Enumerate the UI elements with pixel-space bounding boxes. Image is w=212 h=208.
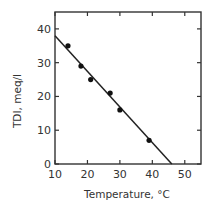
data-point: [65, 43, 70, 48]
x-tick-label: 30: [113, 168, 127, 181]
x-axis-label: Temperature, °C: [83, 188, 170, 200]
fit-line: [55, 36, 172, 164]
data-point: [88, 77, 93, 82]
y-axis-label: TDI, meq/l: [11, 74, 23, 129]
y-tick-label: 0: [44, 158, 51, 171]
data-point: [146, 138, 151, 143]
x-tick-label: 20: [80, 168, 94, 181]
data-point: [108, 90, 113, 95]
data-point: [78, 63, 83, 68]
y-tick-label: 10: [37, 124, 51, 137]
chart: 1020304050010203040 Temperature, °C TDI,…: [0, 0, 212, 208]
plot-frame: [55, 12, 201, 164]
plot-border: [55, 12, 201, 164]
x-tick-label: 40: [145, 168, 159, 181]
x-tick-label: 50: [178, 168, 192, 181]
data-point: [117, 107, 122, 112]
y-tick-label: 40: [37, 23, 51, 36]
regression-line: [55, 36, 172, 164]
y-tick-label: 20: [37, 90, 51, 103]
axis-ticks: [55, 12, 201, 164]
y-tick-label: 30: [37, 57, 51, 70]
